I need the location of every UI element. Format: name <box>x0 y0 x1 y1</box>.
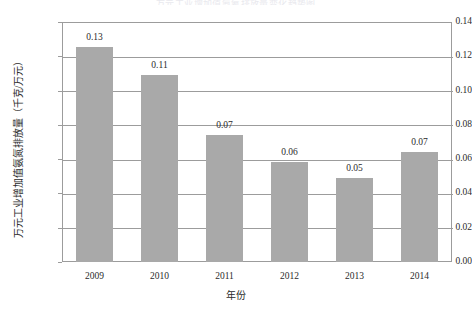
bar-2013 <box>336 178 373 262</box>
bar-2009 <box>76 47 113 262</box>
bar-2010 <box>141 75 178 262</box>
bar-value-label: 0.11 <box>130 61 190 71</box>
bar-value-label: 0.06 <box>260 148 320 158</box>
y-axis-tick-mark <box>58 262 62 263</box>
bar-chart: 万元工业增加值氨氮排放量变化趋势图 0.000.020.040.060.080.… <box>0 0 472 315</box>
bar-2012 <box>271 162 308 262</box>
bar-value-label: 0.07 <box>390 138 450 148</box>
bars-layer: 0.130.110.070.060.050.07 <box>62 22 452 262</box>
bar-value-label: 0.05 <box>325 164 385 174</box>
bar-2014 <box>401 152 438 262</box>
bar-2011 <box>206 135 243 262</box>
x-axis-tick-2014: 2014 <box>380 272 460 282</box>
y-axis-title: 万元工业增加值氨氮排放量（千克/万元） <box>14 22 24 272</box>
x-axis-title: 年份 <box>0 291 472 301</box>
bar-value-label: 0.07 <box>195 121 255 131</box>
bar-value-label: 0.13 <box>65 33 125 43</box>
